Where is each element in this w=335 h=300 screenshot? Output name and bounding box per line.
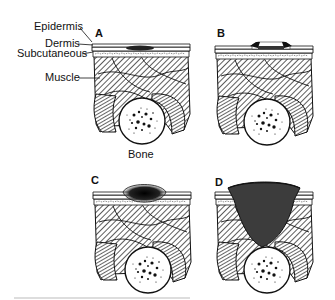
panel-c: C	[91, 174, 191, 293]
label-subcutaneous: Subcutaneous	[17, 47, 88, 59]
panel-c-label: C	[91, 174, 99, 186]
bone-a	[119, 98, 165, 144]
panel-a-label: A	[95, 27, 103, 39]
panel-d-label: D	[215, 176, 223, 188]
panel-b-label: B	[217, 27, 225, 39]
epidermal-loss-b	[258, 46, 284, 49]
pressure-ulcer-diagram: A B C D Epidermis Dermis Subcutaneous	[0, 0, 335, 300]
label-epidermis: Epidermis	[34, 20, 83, 32]
bone-d	[244, 247, 290, 293]
panel-a: A	[92, 27, 190, 144]
label-bone: Bone	[128, 148, 154, 160]
leader-epidermis	[80, 28, 92, 42]
panel-d: D	[215, 176, 313, 293]
bone-c	[125, 247, 171, 293]
label-muscle: Muscle	[45, 71, 80, 83]
bone-b	[244, 99, 290, 145]
skin-discoloration-a	[126, 46, 154, 51]
leader-dermis	[78, 44, 93, 45]
panel-b: B	[215, 27, 313, 145]
